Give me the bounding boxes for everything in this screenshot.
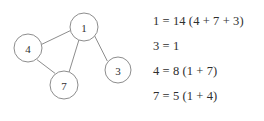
graph-edge-4-1 [42,31,71,45]
graph-node-4-label: 4 [25,43,31,55]
graph-node-4[interactable]: 4 [14,34,42,62]
equation-line-2: 3 = 1 [153,34,264,59]
graph-node-1-label: 1 [81,22,87,34]
graph-node-1[interactable]: 1 [70,13,98,41]
graph-edge-1-3 [95,36,108,61]
graph-edge-4-7 [37,60,55,74]
graph-diagram: 1 4 7 3 [0,0,145,121]
graph-node-3-label: 3 [115,65,121,77]
equation-line-3: 4 = 8 (1 + 7) [153,59,264,84]
equation-list: 1 = 14 (4 + 7 + 3) 3 = 1 4 = 8 (1 + 7) 7… [153,9,264,113]
graph-node-3[interactable]: 3 [105,57,131,83]
graph-edge-1-7 [69,40,79,72]
equation-line-4: 7 = 5 (1 + 4) [153,84,264,109]
figure-canvas: 1 4 7 3 1 = 14 (4 + 7 + 3) 3 = 1 4 = 8 (… [0,0,264,121]
graph-node-7-label: 7 [61,80,67,92]
graph-svg: 1 4 7 3 [0,0,145,121]
equation-line-1: 1 = 14 (4 + 7 + 3) [153,9,264,34]
graph-node-7[interactable]: 7 [50,71,78,99]
